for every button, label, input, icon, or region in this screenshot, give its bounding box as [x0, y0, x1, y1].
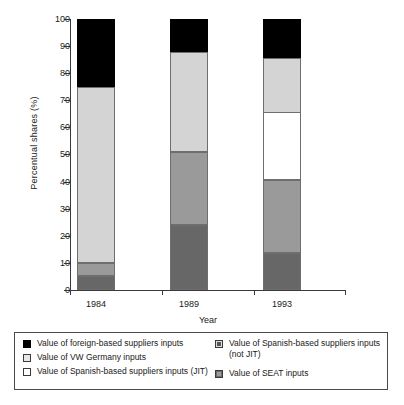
segment-1989-notjit	[170, 152, 208, 225]
y-tick-label-40: 40	[12, 178, 70, 187]
legend-swatch-spanish-jit-icon	[23, 368, 31, 376]
y-tick-label-80: 80	[12, 69, 70, 78]
x-tick-label-1984: 1984	[66, 299, 126, 309]
stacked-bar-chart: Percentual shares (%) 100 90 80 70 60 50…	[0, 0, 404, 405]
y-tick-label-70: 70	[12, 96, 70, 105]
segment-1993-notjit	[263, 180, 301, 253]
legend-item-spanish-jit[interactable]: Value of Spanish-based suppliers inputs …	[23, 366, 213, 377]
segment-1993-vw	[263, 58, 301, 112]
segment-1993-jit	[263, 112, 301, 180]
segment-1989-seat	[170, 225, 208, 290]
plot-area	[70, 19, 345, 290]
segment-1984-vw	[77, 87, 115, 263]
segment-1993-foreign	[263, 19, 301, 58]
y-tick-label-30: 30	[12, 205, 70, 214]
x-axis-title: Year	[70, 315, 346, 325]
y-tick-label-10: 10	[12, 259, 70, 268]
chart-legend: Value of foreign-based suppliers inputs …	[14, 332, 388, 390]
legend-swatch-seat-icon	[215, 370, 223, 378]
legend-swatch-spanish-not-jit-icon	[215, 340, 223, 348]
x-axis-line	[70, 290, 346, 291]
legend-column-right: Value of Spanish-based suppliers inputs …	[215, 338, 387, 382]
legend-label-spanish-jit: Value of Spanish-based suppliers inputs …	[37, 366, 208, 377]
x-tick-label-1993: 1993	[252, 299, 312, 309]
segment-1984-foreign	[77, 19, 115, 87]
legend-swatch-foreign-based-icon	[23, 340, 31, 348]
y-tick-label-50: 50	[12, 150, 70, 159]
legend-item-seat[interactable]: Value of SEAT inputs	[215, 368, 387, 379]
legend-label-seat: Value of SEAT inputs	[229, 368, 308, 379]
y-tick-label-20: 20	[12, 232, 70, 241]
legend-item-spanish-not-jit[interactable]: Value of Spanish-based suppliers inputs …	[215, 338, 387, 360]
x-tick-end	[345, 290, 346, 295]
segment-1984-notjit	[77, 263, 115, 277]
y-tick-label-60: 60	[12, 123, 70, 132]
x-tick-label-1989: 1989	[159, 299, 219, 309]
segment-1984-seat	[77, 276, 115, 290]
legend-label-foreign-based: Value of foreign-based suppliers inputs	[37, 338, 183, 349]
segment-1989-foreign	[170, 19, 208, 52]
legend-label-vw-germany: Value of VW Germany inputs	[37, 352, 146, 363]
y-tick-label-90: 90	[12, 42, 70, 51]
legend-item-vw-germany[interactable]: Value of VW Germany inputs	[23, 352, 213, 363]
x-tick-1	[162, 290, 163, 295]
segment-1989-vw	[170, 52, 208, 152]
legend-column-left: Value of foreign-based suppliers inputs …	[23, 338, 213, 380]
segment-1993-seat	[263, 253, 301, 290]
y-tick-label-0: 0	[12, 286, 70, 295]
legend-label-spanish-not-jit: Value of Spanish-based suppliers inputs …	[229, 338, 387, 360]
legend-swatch-vw-germany-icon	[23, 354, 31, 362]
x-tick-2	[254, 290, 255, 295]
y-tick-label-100: 100	[12, 15, 70, 24]
legend-item-foreign-based[interactable]: Value of foreign-based suppliers inputs	[23, 338, 213, 349]
x-tick-start	[70, 290, 71, 295]
